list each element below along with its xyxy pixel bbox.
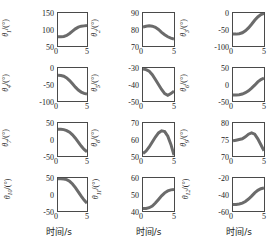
y-axis-label-theta5: θ5/(°) (91, 74, 101, 92)
subplot-theta3: θ3/(°) 0 -50 -100 0 5 (179, 0, 271, 55)
y-axis-label-theta8: θ8/(°) (91, 129, 101, 147)
plot-area-theta10 (57, 177, 88, 212)
subplot-theta7: θ7/(°) 50 0 -50 0 5 (0, 110, 90, 165)
line-theta9 (233, 123, 264, 156)
y-ticks-theta4: 0 -50 -100 (20, 65, 54, 109)
plot-area-theta9 (232, 122, 265, 157)
line-theta2 (143, 13, 174, 46)
x-axis-label-col1: 时间/s (0, 225, 104, 238)
y-axis-label-theta9: θ9/(°) (180, 129, 190, 147)
subplot-theta10: θ10/(°) 50 0 -50 0 5 (0, 165, 90, 223)
line-theta8 (143, 123, 174, 156)
xlabel-cell-col1: 时间/s (0, 223, 90, 251)
y-axis-label-theta11: θ11/(°) (92, 179, 102, 199)
y-ticks-theta8: 70 60 50 (112, 120, 139, 164)
y-axis-label-theta4: θ4/(°) (2, 74, 12, 92)
plot-area-theta7 (57, 122, 88, 157)
plot-area-theta5 (142, 67, 175, 102)
plot-area-theta11 (142, 177, 175, 212)
subplot-theta6: θ6/(°) 50 0 -50 0 5 (179, 55, 271, 110)
y-axis-label-theta10: θ10/(°) (4, 179, 14, 200)
y-ticks-theta10: 50 0 -50 (24, 175, 54, 219)
subplot-theta12: θ12/(°) -20 -40 -60 0 5 (179, 165, 271, 223)
y-ticks-theta1: 150 100 50 (24, 10, 54, 54)
xlabel-cell-col3: 时间/s (179, 223, 271, 251)
subplot-theta9: θ9/(°) 80 75 70 0 5 (179, 110, 271, 165)
xlabel-cell-col2: 时间/s (90, 223, 179, 251)
plot-area-theta8 (142, 122, 175, 157)
line-theta10 (58, 178, 87, 211)
plot-area-theta2 (142, 12, 175, 47)
y-ticks-theta11: 60 50 40 (112, 175, 139, 219)
y-ticks-theta6: 50 0 -50 (199, 65, 229, 109)
subplot-theta2: θ2/(°) 90 80 70 0 5 (90, 0, 179, 55)
line-theta3 (233, 13, 264, 46)
y-ticks-theta3: 0 -50 -100 (195, 10, 229, 54)
line-theta6 (233, 68, 264, 101)
y-ticks-theta2: 90 80 70 (112, 10, 139, 54)
y-ticks-theta5: -30 -40 -50 (106, 65, 139, 109)
plot-area-theta3 (232, 12, 265, 47)
line-theta12 (233, 178, 264, 211)
line-theta4 (58, 68, 87, 101)
plot-area-theta12 (232, 177, 265, 212)
y-axis-label-theta7: θ7/(°) (2, 129, 12, 147)
subplot-theta5: θ5/(°) -30 -40 -50 0 5 (90, 55, 179, 110)
line-theta11 (143, 178, 174, 211)
subplot-theta11: θ11/(°) 60 50 40 0 5 (90, 165, 179, 223)
y-ticks-theta12: -20 -40 -60 (197, 175, 229, 219)
x-axis-label-col2: 时间/s (90, 225, 193, 238)
line-theta5 (143, 68, 174, 101)
plot-area-theta6 (232, 67, 265, 102)
plot-area-theta4 (57, 67, 88, 102)
subplot-theta1: θ1/(°) 150 100 50 0 5 (0, 0, 90, 55)
figure-grid: θ1/(°) 150 100 50 0 5 θ2/(°) 90 80 70 (0, 0, 271, 251)
y-ticks-theta7: 50 0 -50 (24, 120, 54, 164)
y-axis-label-theta12: θ12/(°) (182, 179, 192, 200)
subplot-theta8: θ8/(°) 70 60 50 0 5 (90, 110, 179, 165)
line-theta7 (58, 123, 87, 156)
x-axis-label-col3: 时间/s (179, 225, 271, 238)
y-ticks-theta9: 80 75 70 (201, 120, 229, 164)
line-theta1 (58, 13, 87, 46)
plot-area-theta1 (57, 12, 88, 47)
subplot-theta4: θ4/(°) 0 -50 -100 0 5 (0, 55, 90, 110)
y-axis-label-theta2: θ2/(°) (91, 19, 101, 37)
y-axis-label-theta6: θ6/(°) (180, 74, 190, 92)
y-axis-label-theta3: θ3/(°) (180, 19, 190, 37)
y-axis-label-theta1: θ1/(°) (2, 19, 12, 37)
